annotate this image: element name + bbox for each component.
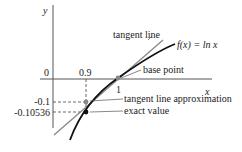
origin-label: 0 (44, 67, 49, 78)
exact-point-marker (84, 110, 89, 115)
tick-x-09: 0.9 (79, 67, 92, 78)
base-point-marker (116, 76, 121, 81)
approximation-label: tangent line approximation (124, 93, 232, 104)
exact-value-label: exact value (124, 105, 170, 116)
tick-y-01: -0.1 (34, 96, 50, 107)
y-axis-label: y (42, 5, 48, 16)
leader-exact (90, 111, 123, 112)
function-label: f(x) = ln x (177, 39, 218, 51)
tick-y-010536: -0.10536 (14, 107, 50, 118)
tangent-line (54, 40, 163, 135)
base-point-label: base point (143, 64, 184, 75)
linear-approximation-diagram: y x 0 0.9 1 -0.1 -0.10536 tangent line f… (0, 0, 242, 152)
tick-x-1: 1 (116, 84, 121, 95)
approx-point-marker (84, 100, 89, 105)
tangent-line-label: tangent line (113, 29, 160, 40)
